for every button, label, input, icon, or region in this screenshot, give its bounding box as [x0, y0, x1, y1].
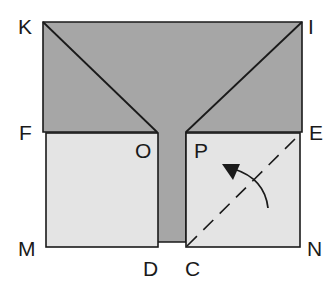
label-e: E: [309, 121, 323, 144]
label-p: P: [194, 139, 208, 162]
label-f: F: [19, 121, 32, 144]
label-i: I: [308, 15, 314, 38]
folding-diagram: K I F E O P M N D C: [0, 0, 334, 287]
label-n: N: [307, 237, 322, 260]
label-o: O: [135, 139, 151, 162]
label-d: D: [143, 257, 158, 280]
label-k: K: [18, 15, 32, 38]
label-m: M: [18, 237, 36, 260]
label-c: C: [185, 257, 200, 280]
